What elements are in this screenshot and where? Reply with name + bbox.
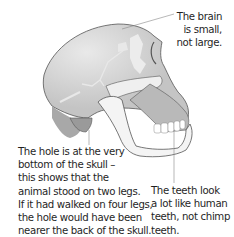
leader-line-brain: [122, 14, 174, 29]
annotation-hole-line: The hole is at the very: [18, 145, 152, 158]
annotation-teeth-line: The teeth look: [151, 184, 230, 197]
annotation-teeth-line: teeth.: [151, 224, 230, 237]
annotation-hole-line: this shows that the: [18, 171, 152, 184]
annotation-hole-line: animal stood on two legs.: [18, 185, 152, 198]
annotation-hole-line: bottom of the skull –: [18, 158, 152, 171]
annotation-teeth-line: teeth, not chimp: [151, 210, 230, 223]
annotation-teeth-line: a lot like human: [151, 197, 230, 210]
annotation-hole-line: the hole would have been: [18, 211, 152, 224]
annotation-brain-line: The brain: [177, 10, 222, 23]
annotation-brain-line: is small,: [177, 23, 222, 36]
annotation-brain: The brain is small, not large.: [177, 10, 222, 50]
annotation-hole-line: If it had walked on four legs,: [18, 198, 152, 211]
annotation-hole-line: nearer the back of the skull.: [18, 224, 152, 237]
annotation-teeth: The teeth look a lot like human teeth, n…: [151, 184, 230, 237]
annotation-brain-line: not large.: [177, 36, 222, 49]
annotation-hole: The hole is at the very bottom of the sk…: [18, 145, 152, 237]
